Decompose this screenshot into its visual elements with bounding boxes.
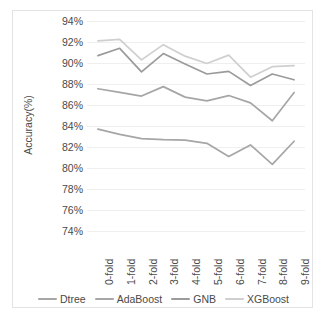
x-tick-label: 0-fold: [103, 233, 115, 285]
y-axis-title: Accuracy(%): [22, 65, 34, 185]
legend-swatch-icon: [171, 298, 190, 300]
y-tick-label: 82%: [43, 142, 83, 153]
y-tick-label: 94%: [43, 16, 83, 27]
chart-legend: DtreeAdaBoostGNBXGBoost: [13, 289, 314, 309]
y-tick-label: 80%: [43, 163, 83, 174]
x-tick-label: 5-fold: [212, 233, 224, 285]
legend-label: Dtree: [60, 293, 86, 305]
x-tick-label: 8-fold: [277, 233, 289, 285]
y-axis-tick-labels: 94%92%90%88%86%84%82%80%78%76%74%: [43, 21, 83, 231]
x-tick-label: 6-fold: [234, 233, 246, 285]
legend-label: AdaBoost: [117, 293, 163, 305]
legend-item-adaboost[interactable]: AdaBoost: [95, 293, 163, 305]
legend-swatch-icon: [225, 298, 244, 300]
x-tick-label: 2-fold: [147, 233, 159, 285]
y-tick-label: 76%: [43, 205, 83, 216]
x-tick-label: 1-fold: [125, 233, 137, 285]
y-tick-label: 92%: [43, 37, 83, 48]
y-tick-label: 84%: [43, 121, 83, 132]
y-tick-label: 86%: [43, 100, 83, 111]
legend-label: GNB: [193, 293, 216, 305]
accuracy-line-chart: Accuracy(%) 94%92%90%88%86%84%82%80%78%7…: [12, 10, 313, 308]
legend-item-xgboost[interactable]: XGBoost: [225, 293, 289, 305]
legend-swatch-icon: [38, 298, 57, 300]
series-line-adaboost: [98, 87, 294, 121]
series-lines: [87, 21, 305, 231]
y-tick-label: 90%: [43, 58, 83, 69]
gridline: [87, 231, 305, 232]
y-tick-label: 74%: [43, 226, 83, 237]
legend-label: XGBoost: [247, 293, 289, 305]
x-tick-label: 3-fold: [168, 233, 180, 285]
x-tick-label: 7-fold: [256, 233, 268, 285]
legend-item-gnb[interactable]: GNB: [171, 293, 216, 305]
x-tick-label: 9-fold: [299, 233, 311, 285]
series-line-dtree: [98, 129, 294, 164]
legend-swatch-icon: [95, 298, 114, 300]
series-line-xgboost: [98, 39, 294, 77]
x-axis-tick-labels: 0-fold1-fold2-fold3-fold4-fold5-fold6-fo…: [87, 233, 305, 289]
series-line-gnb: [98, 48, 294, 85]
y-tick-label: 78%: [43, 184, 83, 195]
x-tick-label: 4-fold: [190, 233, 202, 285]
plot-area: Accuracy(%) 94%92%90%88%86%84%82%80%78%7…: [13, 11, 314, 309]
legend-item-dtree[interactable]: Dtree: [38, 293, 86, 305]
y-tick-label: 88%: [43, 79, 83, 90]
